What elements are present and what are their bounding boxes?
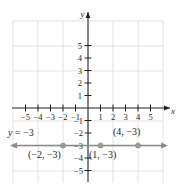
graph-canvas: −5 −4 −3 −2 −1 1 2 3 4 5 5 4 3 2 1 −1 −2… — [0, 0, 180, 187]
y-axis-label: y — [80, 9, 85, 19]
y-tick-label: 3 — [78, 66, 82, 76]
x-axis-label: x — [170, 106, 175, 116]
y-tick-label: −4 — [74, 153, 84, 163]
x-tick-label: 3 — [123, 112, 127, 122]
y-tick-label: −2 — [74, 128, 83, 138]
x-axis-arrowhead — [164, 106, 170, 111]
line-arrowhead-right — [161, 143, 168, 149]
x-tick-label: 1 — [98, 112, 102, 122]
point-label-a: (−2, −3) — [28, 149, 61, 161]
coordinate-plane-figure: −5 −4 −3 −2 −1 1 2 3 4 5 5 4 3 2 1 −1 −2… — [0, 0, 180, 187]
y-axis-arrowhead — [86, 12, 91, 18]
x-tick-label: −2 — [58, 112, 67, 122]
y-tick-label: 1 — [78, 91, 82, 101]
y-tick-label: 5 — [78, 41, 82, 51]
y-tick-label: −5 — [74, 166, 83, 176]
data-point — [98, 143, 103, 148]
x-tick-label: 5 — [148, 112, 152, 122]
point-label-c: (4, −3) — [113, 126, 140, 138]
equation-label: y = −3 — [7, 127, 34, 138]
data-point — [135, 143, 140, 148]
x-tick-label: 2 — [111, 112, 115, 122]
x-tick-label: −3 — [46, 112, 55, 122]
data-point — [60, 143, 65, 148]
y-tick-label: 4 — [78, 53, 83, 63]
line-y-equals-minus-3 — [10, 143, 168, 149]
x-tick-label: 4 — [136, 112, 141, 122]
x-tick-label: −4 — [33, 112, 43, 122]
x-tick-label: −5 — [21, 112, 30, 122]
point-label-b: (1, −3) — [89, 149, 116, 161]
line-arrowhead-left — [10, 143, 17, 149]
y-tick-label: 2 — [78, 78, 82, 88]
y-tick-label: −1 — [74, 116, 83, 126]
equation-value: = −3 — [12, 127, 33, 138]
